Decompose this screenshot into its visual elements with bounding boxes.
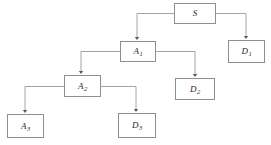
node-a2[interactable]: A2 [64,75,101,97]
node-d3[interactable]: D3 [118,113,156,138]
node-a2-label: A2 [78,82,87,91]
node-a3-label: A3 [21,122,30,131]
node-a1-label: A1 [133,47,142,56]
node-a1[interactable]: A1 [120,41,156,62]
node-s[interactable]: S [174,3,216,24]
node-d2-label: D2 [190,85,200,94]
edge-s-to-d1 [216,14,246,38]
node-a3[interactable]: A3 [7,114,44,138]
diagram-canvas: S D1 A1 D2 A2 A3 D3 [0,0,271,145]
edge-a2-to-a3 [25,87,64,112]
edge-a1-to-a2 [81,52,120,73]
edge-s-to-a1 [137,14,174,39]
node-d1-label: D1 [241,47,251,56]
node-d3-label: D3 [132,121,142,130]
node-s-label: S [193,9,198,18]
edge-a1-to-d2 [156,52,195,76]
node-d2[interactable]: D2 [175,78,215,100]
edge-a2-to-d3 [101,87,136,111]
node-d1[interactable]: D1 [228,40,265,63]
